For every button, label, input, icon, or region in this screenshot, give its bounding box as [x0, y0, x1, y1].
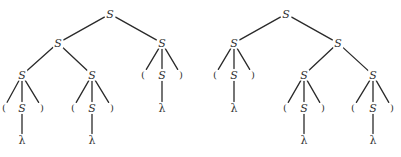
tree-edge [343, 47, 368, 70]
nonterminal-s-node: S [281, 9, 291, 20]
nonterminal-s-node: S [157, 38, 167, 49]
tree-edge [307, 81, 320, 103]
nonterminal-s-node: S [87, 103, 97, 114]
open-paren-node: ( [282, 103, 288, 113]
nonterminal-s-node: S [157, 70, 167, 81]
tree-edge [95, 81, 108, 103]
open-paren-node: ( [1, 103, 7, 113]
tree-edge [376, 81, 389, 103]
parse-tree-diagram: SSSSS(S)(S)(S)λλλSSS(S)SSλ(S)(S)λλ [0, 0, 401, 157]
nonterminal-s-node: S [105, 9, 115, 20]
nonterminal-s-node: S [53, 38, 63, 49]
tree-edge [7, 81, 19, 103]
close-paren-node: ) [39, 103, 45, 113]
tree-edge [309, 47, 334, 70]
tree-edge [25, 81, 38, 103]
close-paren-node: ) [178, 70, 184, 80]
nonterminal-s-node: S [368, 70, 378, 81]
close-paren-node: ) [320, 103, 326, 113]
open-paren-node: ( [350, 103, 356, 113]
lambda-node: λ [230, 103, 239, 114]
nonterminal-s-node: S [229, 70, 239, 81]
close-paren-node: ) [250, 70, 256, 80]
nonterminal-s-node: S [368, 103, 378, 114]
tree-edge [27, 47, 53, 70]
tree-edge [218, 49, 230, 70]
nonterminal-s-node: S [17, 70, 27, 81]
tree-edge [76, 81, 89, 103]
close-paren-node: ) [109, 103, 115, 113]
tree-edge [63, 47, 88, 70]
open-paren-node: ( [140, 70, 146, 80]
tree-edge [288, 81, 301, 103]
tree-edge [165, 49, 177, 70]
nonterminal-s-node: S [333, 38, 343, 49]
tree-edge [356, 81, 369, 103]
tree-edge [146, 49, 158, 70]
tree-edges [0, 0, 401, 157]
open-paren-node: ( [70, 103, 76, 113]
tree-edge [292, 17, 333, 40]
lambda-node: λ [18, 135, 27, 146]
nonterminal-s-node: S [17, 103, 27, 114]
open-paren-node: ( [212, 70, 218, 80]
close-paren-node: ) [389, 103, 395, 113]
lambda-node: λ [369, 135, 378, 146]
lambda-node: λ [88, 135, 97, 146]
nonterminal-s-node: S [87, 70, 97, 81]
tree-edge [237, 49, 249, 70]
tree-edge [64, 17, 105, 40]
lambda-node: λ [158, 103, 167, 114]
nonterminal-s-node: S [229, 38, 239, 49]
tree-edge [116, 17, 157, 40]
lambda-node: λ [300, 135, 309, 146]
nonterminal-s-node: S [299, 70, 309, 81]
tree-edge [240, 17, 281, 40]
nonterminal-s-node: S [299, 103, 309, 114]
